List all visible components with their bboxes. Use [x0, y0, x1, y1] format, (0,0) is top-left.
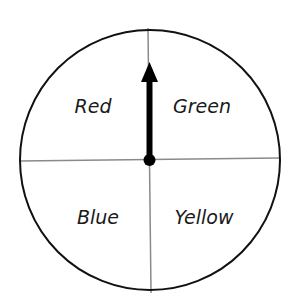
section-label-yellow: Yellow [175, 206, 234, 228]
section-label-blue: Blue [77, 206, 119, 228]
spinner-diagram: Red Green Blue Yellow [0, 0, 302, 302]
spinner-arrow [141, 62, 158, 166]
section-label-green: Green [173, 95, 231, 117]
section-label-red: Red [75, 95, 113, 117]
